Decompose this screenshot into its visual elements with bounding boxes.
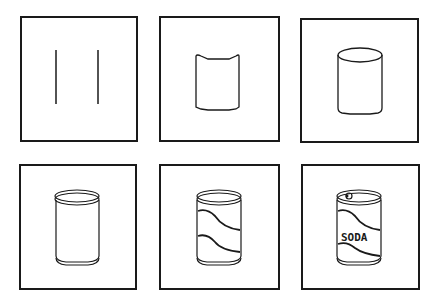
can-with-stripes-drawing [161, 166, 282, 292]
can-with-rims-drawing [21, 166, 139, 292]
open-cylinder-drawing [161, 18, 282, 144]
two-lines-drawing [22, 18, 140, 144]
step-4-panel [19, 164, 137, 290]
cylinder-drawing [302, 20, 421, 145]
step-3-panel [300, 18, 419, 143]
finished-soda-can-drawing: SODA [303, 166, 422, 292]
step-1-panel [20, 16, 138, 142]
step-5-panel [159, 164, 280, 290]
step-2-panel [159, 16, 280, 142]
soda-label: SODA [341, 231, 368, 244]
step-6-panel: SODA [301, 164, 420, 290]
